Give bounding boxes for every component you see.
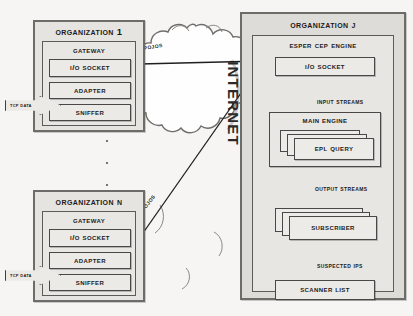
epl-query-label: EPL QUERY	[315, 145, 354, 153]
esper-cep-engine-panel: ESPER CEP ENGINE I/O SOCKET INPUT STREAM…	[252, 35, 394, 292]
organization-n-gateway: GATEWAY I/O SOCKET ADAPTER SNIFFER	[42, 211, 136, 296]
scanner-list-label: SCANNER LIST	[300, 286, 350, 294]
internet-label: INTERNET	[225, 49, 242, 159]
subscriber-stack: SUBSCRIBER	[275, 208, 385, 244]
scanner-list-box: SCANNER LIST	[275, 280, 375, 300]
orgn-adapter-label: ADAPTER	[74, 257, 106, 265]
orgj-io-socket-box: I/O SOCKET	[275, 57, 375, 76]
subscriber-card-front: SUBSCRIBER	[289, 216, 377, 240]
organization-n-title: ORGANIZATION N	[35, 197, 143, 207]
organization-1-title: ORGANIZATION 1	[35, 27, 143, 37]
organization-1-panel: ORGANIZATION 1 GATEWAY I/O SOCKET ADAPTE…	[33, 20, 145, 132]
main-engine-box: MAIN ENGINE EPL QUERY	[269, 112, 381, 167]
output-streams-label: OUTPUT STREAMS	[315, 185, 368, 192]
organization-j-panel: ORGANIZATION J ESPER CEP ENGINE I/O SOCK…	[240, 12, 406, 300]
esper-cep-engine-title: ESPER CEP ENGINE	[253, 41, 393, 50]
tcp-data-label-n: TCP DATA	[9, 273, 32, 279]
orgn-io-socket-label: I/O SOCKET	[70, 234, 110, 242]
org1-sniffer-box: SNIFFER	[49, 104, 131, 121]
org1-io-socket-label: I/O SOCKET	[70, 64, 110, 72]
org1-sniffer-label: SNIFFER	[76, 109, 104, 117]
orgn-adapter-box: ADAPTER	[49, 252, 131, 269]
org1-io-socket-box: I/O SOCKET	[49, 59, 131, 77]
gateway-title-n: GATEWAY	[43, 216, 135, 225]
orgn-sniffer-box: SNIFFER	[49, 274, 131, 291]
org1-adapter-label: ADAPTER	[74, 87, 106, 95]
organization-ellipsis	[104, 140, 110, 186]
gateway-title-1: GATEWAY	[43, 46, 135, 55]
input-streams-label: INPUT STREAMS	[317, 98, 364, 105]
tcp-data-label-1: TCP DATA	[9, 103, 32, 109]
main-engine-label: MAIN ENGINE	[270, 117, 380, 125]
org1-adapter-box: ADAPTER	[49, 82, 131, 99]
orgj-io-socket-label: I/O SOCKET	[305, 63, 345, 71]
epl-query-card-front: EPL QUERY	[294, 138, 374, 160]
organization-j-title: ORGANIZATION J	[242, 20, 404, 30]
organization-n-panel: ORGANIZATION N GATEWAY I/O SOCKET ADAPTE…	[33, 190, 145, 302]
architecture-diagram: INTERNET POJOs POJOs ORGANIZATION 1 GATE…	[0, 0, 413, 316]
suspected-ips-label: SUSPECTED IPs	[317, 262, 363, 269]
epl-query-stack: EPL QUERY	[280, 130, 375, 162]
orgn-sniffer-label: SNIFFER	[76, 279, 104, 287]
organization-1-gateway: GATEWAY I/O SOCKET ADAPTER SNIFFER	[42, 41, 136, 126]
orgn-io-socket-box: I/O SOCKET	[49, 229, 131, 247]
subscriber-label: SUBSCRIBER	[311, 224, 355, 232]
